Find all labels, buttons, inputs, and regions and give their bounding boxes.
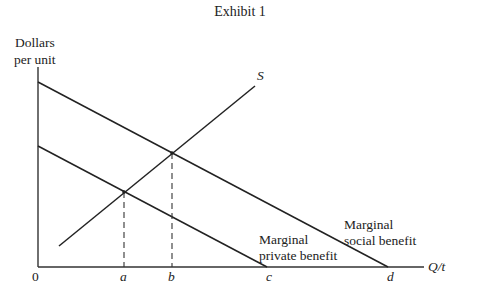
marginal-private-benefit-curve (38, 146, 267, 267)
x-tick-b: b (168, 269, 175, 285)
x-tick-c: c (266, 269, 272, 285)
msb-label-line2: social benefit (344, 233, 416, 249)
msb-label: Marginal social benefit (344, 217, 416, 249)
equilibrium-point-a (122, 190, 126, 194)
mpb-label: Marginal private benefit (259, 232, 337, 264)
supply-label: S (257, 68, 264, 84)
x-tick-a: a (120, 269, 127, 285)
mpb-label-line2: private benefit (259, 248, 337, 264)
equilibrium-point-b (170, 151, 174, 155)
x-tick-d: d (387, 269, 394, 285)
supply-curve (59, 86, 255, 246)
mpb-label-line1: Marginal (259, 232, 337, 248)
origin-label: 0 (32, 269, 39, 285)
msb-label-line1: Marginal (344, 217, 416, 233)
chart-plot (0, 0, 480, 300)
x-axis-label: Q/t (428, 259, 445, 275)
